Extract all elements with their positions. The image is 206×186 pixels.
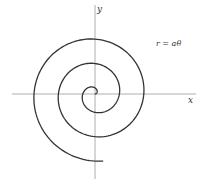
x-axis-label: x (188, 95, 193, 105)
y-axis-label: y (96, 4, 103, 14)
spiral-diagram: y x r = aθ (0, 0, 206, 186)
spiral-curve (34, 39, 144, 161)
equation-label: r = aθ (156, 39, 181, 48)
